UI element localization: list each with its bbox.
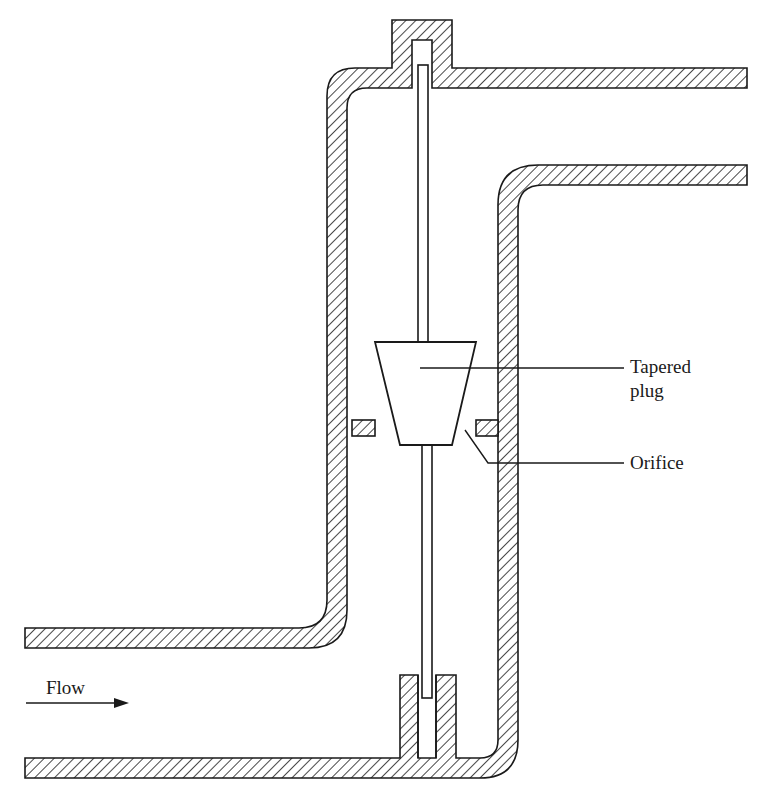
outer-pipe-wall xyxy=(25,20,747,648)
orifice-tab-left xyxy=(352,420,375,436)
tapered-plug-label-line1: Tapered xyxy=(630,356,691,377)
stem-lower xyxy=(422,445,432,698)
orifice-tab-right xyxy=(476,420,498,436)
stem-upper xyxy=(418,65,428,342)
tapered-plug xyxy=(375,342,476,445)
orifice-label: Orifice xyxy=(630,452,684,473)
flow-arrow-icon xyxy=(114,698,129,708)
tapered-plug-label-line2: plug xyxy=(630,380,664,401)
flow-label: Flow xyxy=(46,677,85,698)
